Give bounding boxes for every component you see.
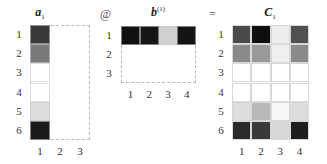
row-label: 2 bbox=[14, 47, 24, 59]
matrix-c-cell bbox=[232, 83, 251, 102]
matrix-b-cell bbox=[159, 26, 178, 45]
matrix-a-cell bbox=[30, 121, 50, 140]
row-label: 4 bbox=[14, 86, 24, 98]
matrix-c-cell bbox=[290, 83, 309, 102]
row-label: 2 bbox=[216, 47, 226, 59]
matrix-c-cell bbox=[271, 121, 290, 140]
equals-operator: = bbox=[209, 7, 216, 22]
row-label: 2 bbox=[104, 48, 114, 60]
row-label: 3 bbox=[14, 66, 24, 78]
matrix-c-cell bbox=[251, 83, 270, 102]
matrix-c-cell bbox=[290, 63, 309, 82]
col-label: 4 bbox=[290, 145, 309, 157]
matrix-c-cell bbox=[271, 25, 290, 44]
matrix-a-cell bbox=[30, 63, 50, 82]
matrix-a-cell bbox=[30, 44, 50, 63]
col-label: 3 bbox=[70, 145, 90, 157]
matrix-c-cell bbox=[271, 44, 290, 63]
matrix-c-cell bbox=[271, 63, 290, 82]
matrix-b-cell bbox=[177, 26, 196, 45]
col-label: 2 bbox=[140, 88, 159, 100]
row-label: 4 bbox=[216, 86, 226, 98]
matrix-c-title: C1 bbox=[258, 5, 282, 21]
row-label: 1 bbox=[14, 28, 24, 40]
matrix-c-cell bbox=[290, 25, 309, 44]
col-label: 4 bbox=[177, 88, 196, 100]
row-label: 3 bbox=[216, 66, 226, 78]
col-label: 3 bbox=[159, 88, 178, 100]
matrix-c-cell bbox=[290, 44, 309, 63]
matrix-c-cell bbox=[271, 102, 290, 121]
matrix-a-title: a1 bbox=[28, 5, 52, 21]
matrix-c-cell bbox=[251, 121, 270, 140]
matrix-c-cell bbox=[251, 63, 270, 82]
matrix-b-cell bbox=[121, 26, 140, 45]
col-label: 1 bbox=[30, 145, 50, 157]
matrix-b-cell bbox=[140, 26, 159, 45]
matrix-b-title: b(1) bbox=[140, 5, 176, 20]
matrix-c-cell bbox=[251, 102, 270, 121]
row-label: 6 bbox=[216, 124, 226, 136]
col-label: 2 bbox=[251, 145, 270, 157]
col-label: 3 bbox=[271, 145, 290, 157]
row-label: 5 bbox=[216, 105, 226, 117]
col-label: 2 bbox=[50, 145, 70, 157]
matrix-c-cell bbox=[232, 63, 251, 82]
matmul-operator: @ bbox=[100, 7, 111, 22]
matrix-c-cell bbox=[232, 121, 251, 140]
matrix-c-cell bbox=[251, 44, 270, 63]
matrix-c-cell bbox=[232, 25, 251, 44]
row-label: 3 bbox=[104, 67, 114, 79]
matrix-c-cell bbox=[232, 44, 251, 63]
matrix-a-cell bbox=[30, 83, 50, 102]
col-label: 1 bbox=[232, 145, 251, 157]
matrix-c-cell bbox=[290, 121, 309, 140]
matrix-c-cell bbox=[290, 102, 309, 121]
matrix-a-cell bbox=[30, 102, 50, 121]
col-label: 1 bbox=[121, 88, 140, 100]
matrix-a-cell bbox=[30, 25, 50, 44]
matrix-c-cell bbox=[251, 25, 270, 44]
row-label: 1 bbox=[104, 29, 114, 41]
matrix-c-cell bbox=[271, 83, 290, 102]
row-label: 5 bbox=[14, 105, 24, 117]
row-label: 1 bbox=[216, 28, 226, 40]
row-label: 6 bbox=[14, 124, 24, 136]
matrix-c-cell bbox=[232, 102, 251, 121]
